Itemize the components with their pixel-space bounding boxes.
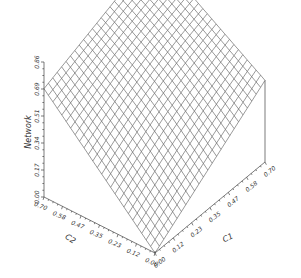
x-tick: [187, 226, 188, 227]
z-axis-label: Network: [24, 115, 33, 149]
y-tick-label: 0.58: [52, 209, 67, 221]
x-tick: [219, 200, 220, 201]
surface-mesh: [44, 0, 265, 253]
y-tick-label: 0.35: [89, 228, 104, 240]
y-tick: [99, 225, 100, 228]
z-tick-label: 0.86: [33, 55, 40, 69]
x-tick: [173, 238, 174, 241]
z-tick-label: 0.00: [33, 190, 40, 204]
y-tick-label: 0.23: [107, 237, 122, 249]
x-tick: [242, 181, 243, 182]
x-tick: [256, 170, 257, 171]
x-tick: [265, 162, 266, 165]
x-tick: [251, 173, 252, 174]
x-tick-label: 0.23: [189, 225, 204, 239]
x-tick: [160, 249, 161, 250]
y-tick: [117, 234, 118, 237]
x-tick: [210, 208, 211, 211]
y-axis-label: C2: [63, 232, 77, 245]
x-tick: [205, 211, 206, 212]
x-tick: [215, 204, 216, 205]
x-tick: [169, 242, 170, 243]
surface-fill: [44, 0, 265, 253]
x-tick: [192, 223, 193, 226]
x-tick: [178, 234, 179, 235]
z-tick-label: 0.69: [33, 82, 40, 96]
x-tick-label: 0.58: [244, 179, 259, 193]
y-tick: [80, 216, 81, 219]
x-axis-label: C1: [221, 231, 235, 244]
y-tick: [43, 197, 44, 200]
x-tick: [224, 196, 225, 197]
x-tick: [228, 192, 229, 195]
surface-chart: 0.000.120.230.350.470.580.700.000.120.23…: [0, 0, 301, 278]
y-tick-label: 0.47: [70, 219, 85, 231]
y-tick-label: 0.12: [126, 247, 141, 259]
x-tick: [238, 185, 239, 186]
x-tick-label: 0.12: [170, 240, 185, 254]
z-tick-label: 0.34: [33, 136, 40, 150]
y-tick-label: 0.00: [144, 256, 159, 268]
x-tick: [247, 177, 248, 180]
x-tick: [233, 189, 234, 190]
x-tick: [183, 230, 184, 231]
z-tick-label: 0.51: [33, 109, 40, 122]
x-tick: [164, 245, 165, 246]
x-tick: [196, 219, 197, 220]
y-tick: [136, 244, 137, 247]
x-tick-label: 0.35: [207, 210, 222, 224]
x-tick-label: 0.47: [225, 194, 240, 208]
x-tick: [201, 215, 202, 216]
y-tick: [62, 206, 63, 209]
x-tick: [260, 166, 261, 167]
y-tick: [154, 253, 155, 256]
x-tick-label: 0.70: [262, 164, 277, 178]
z-tick-label: 0.17: [33, 163, 40, 177]
